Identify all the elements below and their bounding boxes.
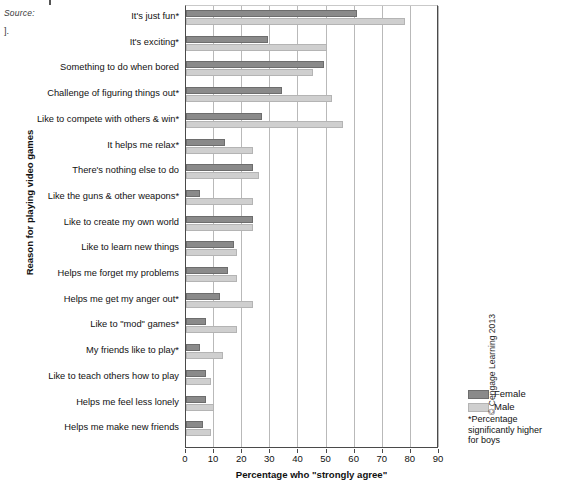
bar-female [186,61,324,68]
x-tick-label: 60 [342,453,366,464]
category-label: Challenge of figuring things out* [47,88,179,98]
gridline-90 [438,6,439,447]
bar-row [186,87,437,113]
bar-row [186,61,437,87]
legend-swatch-male [468,403,489,412]
legend: FemaleMale [468,388,558,414]
chart-figure: Source: ]. Reason for playing video game… [0,0,572,486]
bar-female [186,318,206,325]
bar-row [186,190,437,216]
category-label: Something to do when bored [60,62,179,72]
bar-row [186,216,437,242]
category-label-column: It's just fun*It's exciting*Something to… [0,0,182,486]
x-tick-label: 40 [285,453,309,464]
bar-female [186,293,220,300]
bar-female [186,421,203,428]
bar-row [186,164,437,190]
legend-label: Female [494,388,526,399]
category-label: Like the guns & other weapons* [48,191,179,201]
bar-female [186,36,268,43]
bar-male [186,404,214,411]
category-label: It's exciting* [130,37,179,47]
bar-female [186,190,200,197]
category-label: Helps me feel less lonely [76,397,179,407]
x-tick-label: 50 [314,453,338,464]
bar-male [186,44,327,51]
bar-row [186,396,437,422]
bar-male [186,69,313,76]
bar-male [186,18,405,25]
bar-female [186,241,234,248]
x-tick-label: 20 [229,453,253,464]
bar-female [186,10,357,17]
bar-row [186,139,437,165]
category-label: Helps me forget my problems [58,268,179,278]
category-label: Like to learn new things [81,242,179,252]
bar-male [186,172,259,179]
legend-footnote: *Percentage significantly higher for boy… [468,414,554,446]
bar-male [186,275,237,282]
bar-row [186,113,437,139]
bar-female [186,370,206,377]
x-tick-label: 0 [173,453,197,464]
bar-row [186,36,437,62]
bar-row [186,267,437,293]
bar-female [186,139,225,146]
legend-item: Male [468,401,558,414]
bar-row [186,318,437,344]
bar-male [186,95,332,102]
bar-row [186,344,437,370]
bar-female [186,344,200,351]
bar-male [186,301,253,308]
bar-male [186,198,253,205]
bar-male [186,352,223,359]
bar-female [186,113,262,120]
bar-rows [186,6,437,447]
bar-row [186,370,437,396]
category-label: Like to teach others how to play [48,371,179,381]
bar-male [186,378,211,385]
bar-male [186,121,343,128]
bar-female [186,216,253,223]
bar-row [186,10,437,36]
category-label: Like to create my own world [64,217,179,227]
category-label: It helps me relax* [107,140,179,150]
x-tick-label: 30 [257,453,281,464]
x-tick-label: 90 [426,453,450,464]
bar-row [186,241,437,267]
bar-female [186,164,253,171]
category-label: Helps me get my anger out* [64,294,179,304]
bar-male [186,147,253,154]
category-label: Helps me make new friends [64,422,179,432]
category-label: It's just fun* [131,11,179,21]
bar-female [186,267,228,274]
legend-swatch-female [468,390,489,399]
bar-male [186,429,211,436]
copyright-notice: © Cengage Learning 2013 [487,265,497,415]
bar-male [186,249,237,256]
category-label: Like to compete with others & win* [37,114,179,124]
legend-label: Male [494,401,515,412]
x-tick-label: 80 [398,453,422,464]
category-label: My friends like to play* [86,345,179,355]
x-tick-label: 10 [201,453,225,464]
category-label: There's nothing else to do [72,165,179,175]
bar-row [186,421,437,447]
category-label: Like to "mod" games* [90,319,179,329]
bar-male [186,326,237,333]
bar-female [186,87,282,94]
bar-female [186,396,206,403]
legend-item: Female [468,388,558,401]
x-axis-title: Percentage who "strongly agree" [185,469,438,480]
bar-row [186,293,437,319]
plot-area [185,5,438,448]
bar-male [186,224,253,231]
x-tick-label: 70 [370,453,394,464]
